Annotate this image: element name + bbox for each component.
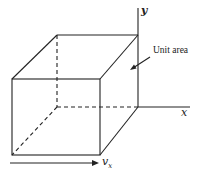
velocity-subscript: x — [108, 162, 112, 170]
velocity-label: vx — [102, 155, 112, 170]
cube-diagram — [0, 0, 203, 176]
unit-area-arrow — [133, 57, 150, 68]
cube-edge-bottom-right — [100, 107, 138, 155]
y-axis-label: y — [141, 4, 147, 17]
cube-edge-top-right — [100, 35, 138, 79]
velocity-arrowhead-icon — [92, 160, 99, 166]
cube-edge-top-left — [12, 35, 57, 79]
cube-front-face — [12, 79, 100, 155]
unit-area-label: Unit area — [153, 45, 188, 55]
unit-area-arrowhead-icon — [130, 65, 137, 71]
hidden-edges — [12, 35, 138, 155]
x-axis-label: x — [181, 106, 187, 119]
